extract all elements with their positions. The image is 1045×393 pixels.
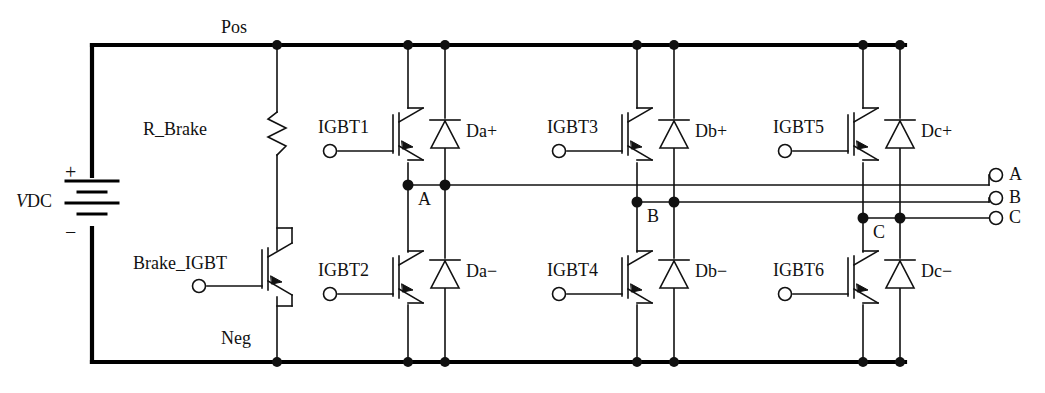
dc-minus-symbol — [885, 260, 915, 288]
igbt2-label: IGBT2 — [318, 261, 369, 279]
brake-igbt-label: Brake_IGBT — [133, 254, 227, 272]
terminal-a-circle — [990, 169, 1003, 182]
node-c-label: C — [873, 223, 885, 241]
db-plus-symbol — [659, 120, 689, 148]
db-minus-symbol — [659, 260, 689, 288]
igbt1-label: IGBT1 — [318, 118, 369, 136]
battery-symbol — [66, 181, 118, 214]
vdc-plus-label: + — [65, 162, 76, 182]
da-plus-label: Da+ — [466, 122, 497, 140]
da-minus-label: Da− — [466, 262, 497, 280]
da-plus-symbol — [430, 120, 460, 148]
vdc-label: VDC — [16, 192, 52, 210]
terminal-b-circle — [990, 192, 1003, 205]
vdc-minus-label: − — [65, 222, 76, 242]
db-minus-label: Db− — [695, 262, 727, 280]
igbt5-label: IGBT5 — [773, 118, 824, 136]
node-b-label: B — [647, 207, 659, 225]
igbt3-label: IGBT3 — [547, 118, 598, 136]
dc-plus-symbol — [885, 120, 915, 148]
brake-resistor-symbol — [268, 112, 286, 155]
igbt6-label: IGBT6 — [773, 261, 824, 279]
junction-dots — [272, 40, 906, 367]
pos-rail-label: Pos — [221, 18, 247, 36]
terminal-c-circle — [990, 212, 1003, 225]
igbt4-label: IGBT4 — [547, 261, 598, 279]
circuit-schematic-canvas — [0, 0, 1045, 393]
terminal-c-label: C — [1009, 208, 1021, 226]
node-a-label: A — [418, 190, 431, 208]
terminal-b-label: B — [1009, 188, 1021, 206]
circuit-diagram: Pos Neg VDC + − R_Brake Brake_IGBT IGBT1… — [0, 0, 1045, 393]
dc-plus-label: Dc+ — [921, 122, 952, 140]
da-minus-symbol — [430, 260, 460, 288]
terminal-a-label: A — [1009, 165, 1022, 183]
db-plus-label: Db+ — [695, 122, 727, 140]
dc-minus-label: Dc− — [921, 262, 952, 280]
r-brake-label: R_Brake — [143, 120, 207, 138]
neg-rail-label: Neg — [221, 329, 251, 347]
